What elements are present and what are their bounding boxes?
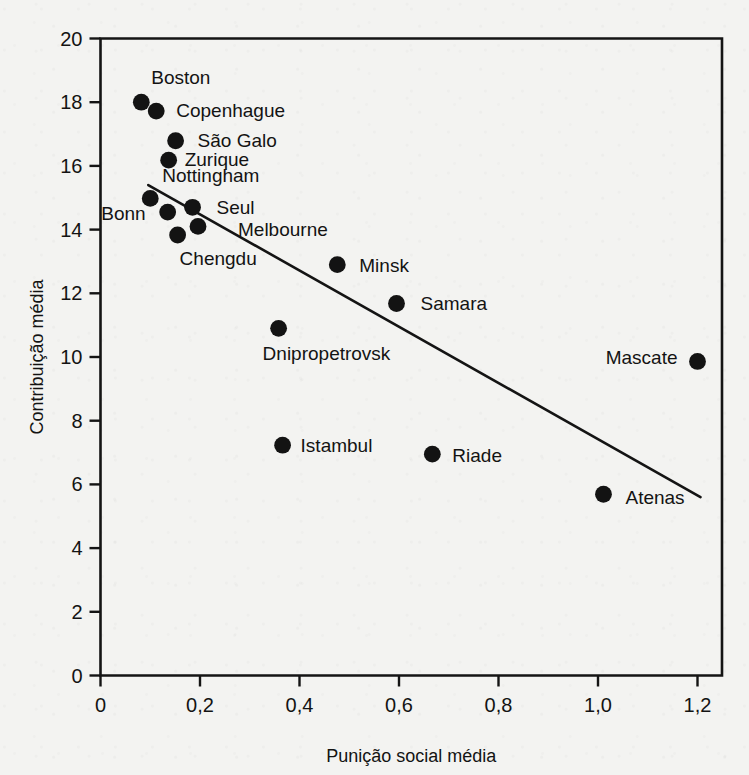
y-tick-label: 20: [60, 28, 82, 50]
data-point: [270, 320, 287, 337]
data-point-label: Istambul: [301, 435, 373, 456]
x-axis-ticks: [101, 676, 698, 687]
data-point-label: São Galo: [198, 130, 277, 151]
data-point: [424, 446, 441, 463]
data-point-label: Samara: [421, 293, 488, 314]
y-tick-label: 6: [71, 473, 82, 495]
data-point: [274, 437, 291, 454]
x-tick-label: 0,8: [485, 694, 513, 716]
x-tick-label: 0: [95, 694, 106, 716]
y-tick-label: 14: [60, 219, 82, 241]
y-axis-ticks: [90, 39, 101, 676]
x-tick-label: 0,6: [385, 694, 413, 716]
regression-line: [148, 185, 700, 497]
data-point-label: Melbourne: [238, 219, 328, 240]
data-point-label: Riade: [452, 445, 502, 466]
y-tick-label: 16: [60, 155, 82, 177]
x-axis-tick-labels: 00,20,40,60,81,01,2: [95, 694, 711, 716]
x-tick-label: 1,2: [684, 694, 712, 716]
y-tick-label: 18: [60, 91, 82, 113]
data-point-label: Nottingham: [162, 165, 259, 186]
y-tick-label: 8: [71, 410, 82, 432]
scan-edge-artifact: [741, 462, 746, 482]
y-axis-tick-labels: 02468101214161820: [60, 28, 82, 687]
data-point-label: Mascate: [606, 347, 678, 368]
scan-edge-artifact: [741, 140, 746, 162]
x-tick-label: 0,4: [286, 694, 314, 716]
data-point: [689, 353, 706, 370]
x-tick-label: 1,0: [584, 694, 612, 716]
data-point: [148, 103, 165, 120]
data-point-label: Seul: [217, 197, 255, 218]
y-tick-label: 2: [71, 601, 82, 623]
data-point-label: Atenas: [625, 487, 684, 508]
y-tick-label: 0: [71, 665, 82, 687]
y-tick-label: 12: [60, 282, 82, 304]
data-point: [169, 227, 186, 244]
data-point: [595, 486, 612, 503]
data-point: [388, 295, 405, 312]
data-point: [184, 199, 201, 216]
data-point-label: Dnipropetrovsk: [263, 343, 391, 364]
y-tick-label: 4: [71, 537, 82, 559]
data-point: [190, 218, 207, 235]
data-point-label: Boston: [151, 67, 210, 88]
data-point: [159, 204, 176, 221]
data-point-label: Bonn: [101, 203, 145, 224]
data-point: [329, 256, 346, 273]
data-point: [167, 132, 184, 149]
scatter-plot: 02468101214161820 00,20,40,60,81,01,2 Bo…: [0, 0, 749, 775]
x-axis-title: Punição social média: [326, 746, 497, 766]
data-point-label: Chengdu: [180, 248, 257, 269]
y-axis-title: Contribuição média: [27, 278, 47, 434]
y-tick-label: 10: [60, 346, 82, 368]
data-point-label: Minsk: [359, 255, 409, 276]
data-point-group: BostonCopenhagueSão GaloZuriqueNottingha…: [101, 67, 706, 508]
x-tick-label: 0,2: [186, 694, 214, 716]
data-point: [133, 94, 150, 111]
figure-canvas: 02468101214161820 00,20,40,60,81,01,2 Bo…: [0, 0, 749, 775]
data-point-label: Copenhague: [176, 100, 285, 121]
